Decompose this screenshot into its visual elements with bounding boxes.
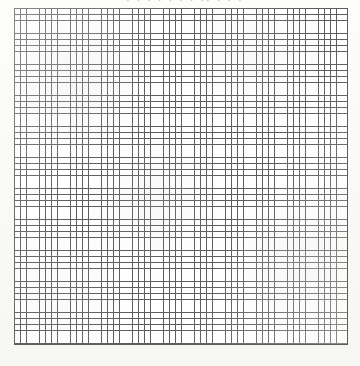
margin-left [0, 0, 14, 366]
grid-border-right [347, 8, 348, 345]
grid-scan-noise [14, 8, 348, 345]
graph-paper-page: · · · · · · · ·· · · · [0, 0, 360, 366]
margin-top [0, 0, 360, 8]
clipped-header-strip: · · · · · · · ·· · · · [0, 0, 360, 8]
margin-bottom [0, 345, 360, 366]
clipped-header-text: · · · · · · · ·· · · · [126, 0, 244, 6]
graph-paper-grid [14, 8, 348, 345]
grid-border-bottom [14, 344, 348, 345]
margin-right [348, 0, 360, 366]
grid-exposure-wash [14, 8, 348, 345]
